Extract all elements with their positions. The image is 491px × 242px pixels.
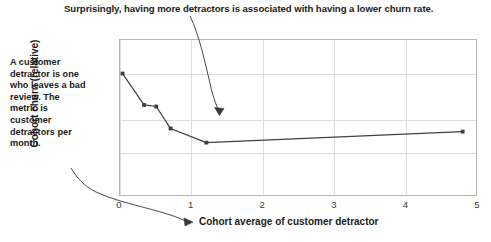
gridline-vertical [334,40,335,195]
x-tick-label: 1 [181,199,201,210]
gridline-vertical [406,40,407,195]
x-tick-label: 5 [467,199,487,210]
x-tick-label: 4 [395,199,415,210]
chart-title: Surprisingly, having more detractors is … [64,3,484,15]
x-tick-label: 3 [324,199,344,210]
gridline-vertical [191,40,192,195]
y-axis-title: Cohort churn (relative) [29,14,40,174]
side-note-callout-arrowhead [184,218,193,226]
x-tick-label: 2 [252,199,272,210]
gridline-horizontal [120,120,476,121]
gridline-vertical [263,40,264,195]
gridline-horizontal [120,74,476,75]
x-tick-label: 0 [109,199,129,210]
gridline-vertical [120,40,121,195]
side-annotation-text: A customer detractor is one who leaves a… [10,57,86,150]
x-axis-title: Cohort average of customer detractor [199,216,379,227]
plot-area [119,39,477,196]
gridline-horizontal [120,153,476,154]
chart-figure: Surprisingly, having more detractors is … [0,0,491,242]
